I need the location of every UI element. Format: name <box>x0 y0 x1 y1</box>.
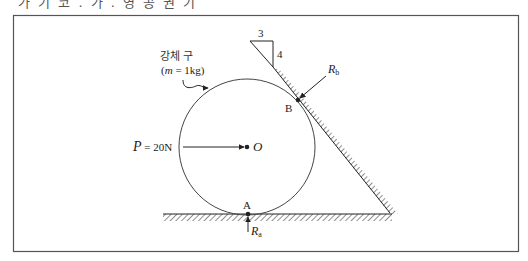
slope-run-label: 3 <box>258 27 264 39</box>
body-label: 강체 구 <box>160 50 194 63</box>
reaction-b-label: Rb <box>327 62 339 77</box>
applied-force-P: P = 20N O <box>132 139 263 154</box>
floor-surface <box>163 214 392 221</box>
force-label: P = 20N <box>132 139 172 154</box>
mass-label: (m = 1kg) <box>161 64 205 77</box>
center-label: O <box>253 139 263 154</box>
reaction-a-label: Ra <box>250 224 262 239</box>
point-a-label: A <box>243 199 251 211</box>
body-label-group: 강체 구 (m = 1kg) <box>160 50 208 88</box>
point-b-label: B <box>285 102 292 114</box>
slope-rise-label: 4 <box>277 48 283 60</box>
physics-diagram: 3 4 강체 구 (m = 1kg) P = 20N O A Ra B Rb <box>0 0 528 261</box>
slope-triangle: 3 4 <box>250 27 283 67</box>
incline-surface <box>273 67 398 214</box>
